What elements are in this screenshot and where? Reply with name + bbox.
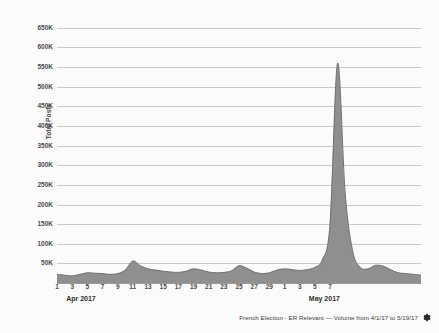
x-axis-tick-label: 7 [328, 284, 332, 291]
y-axis-tick-label: 600K [37, 44, 53, 51]
x-axis-tick-label: 19 [190, 284, 197, 291]
x-axis-month-label: Apr 2017 [66, 295, 96, 302]
y-axis-tick-label: 250K [37, 182, 53, 189]
chart-caption: French Election - ER Relevant — Volume f… [239, 313, 431, 322]
y-axis-tick-label: 650K [37, 25, 53, 32]
y-axis-tick-label: 500K [37, 83, 53, 90]
y-axis-tick-label: 350K [37, 142, 53, 149]
x-axis-tick-label: 21 [205, 284, 212, 291]
y-axis-tick-label: 450K [37, 103, 53, 110]
x-axis-tick-label: 15 [160, 284, 167, 291]
chart-screenshot: Total Posts 50K100K150K200K250K300K350K4… [0, 0, 439, 333]
x-axis-tick-label: 1 [283, 284, 287, 291]
x-axis-tick-label: 11 [129, 284, 136, 291]
x-axis-tick-label: 17 [175, 284, 182, 291]
y-axis-tick-label: 50K [41, 260, 53, 267]
y-axis-tick-label: 100K [37, 240, 53, 247]
x-axis-tick-label: 1 [55, 284, 59, 291]
plot-area: 50K100K150K200K250K300K350K400K450K500K5… [57, 18, 421, 283]
x-axis-tick-label: 27 [251, 284, 258, 291]
y-axis-tick-label: 150K [37, 221, 53, 228]
area-series-fill [57, 63, 421, 283]
x-axis-tick-label: 29 [266, 284, 273, 291]
y-axis-tick-label: 400K [37, 123, 53, 130]
x-axis-tick-label: 9 [116, 284, 120, 291]
x-axis-tick-label: 23 [220, 284, 227, 291]
x-axis-tick-label: 3 [70, 284, 74, 291]
y-axis-tick-label: 300K [37, 162, 53, 169]
y-axis-tick-label: 200K [37, 201, 53, 208]
area-series-line [57, 63, 421, 276]
x-axis-tick-label: 5 [85, 284, 89, 291]
x-axis-tick-label: 5 [313, 284, 317, 291]
x-axis-tick-label: 7 [101, 284, 105, 291]
gear-icon[interactable] [422, 313, 431, 322]
y-axis-tick-label: 550K [37, 64, 53, 71]
x-axis-tick-label: 3 [298, 284, 302, 291]
x-axis-tick-label: 13 [144, 284, 151, 291]
chart-caption-text: French Election - ER Relevant — Volume f… [239, 314, 418, 321]
volume-chart-card: Total Posts 50K100K150K200K250K300K350K4… [0, 0, 439, 333]
x-axis-month-label: May 2017 [309, 295, 340, 302]
area-series [57, 18, 421, 283]
x-axis-month-labels: Apr 2017May 2017 [57, 295, 421, 307]
x-axis-tick-label: 25 [235, 284, 242, 291]
